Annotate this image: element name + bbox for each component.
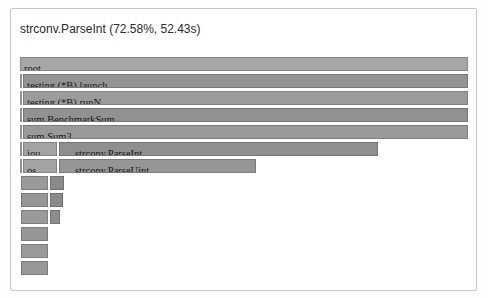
flame-frame-small[interactable] (21, 193, 48, 207)
frame-label: strconv.ParseUint (72, 165, 149, 173)
flame-frame-os-truncated[interactable]: os.… (23, 159, 57, 173)
flame-frame-root[interactable]: root (20, 57, 468, 71)
flame-frame-small[interactable] (50, 210, 60, 224)
flamegraph-page: strconv.ParseInt (72.58%, 52.43s) rootte… (0, 0, 488, 297)
flame-frame-sliver[interactable] (20, 159, 22, 173)
frame-label: os.… (24, 165, 49, 173)
flame-frame-testing-b-runn[interactable]: testing.(*B).runN (23, 91, 468, 105)
frame-label: testing.(*B).runN (24, 97, 101, 105)
flame-frame-strconv-parseint[interactable]: strconv.ParseInt (59, 142, 378, 156)
flame-frame-sliver[interactable] (20, 125, 22, 139)
flame-frame-sliver[interactable] (20, 108, 22, 122)
flame-frame-strconv-parseuint[interactable]: strconv.ParseUint (59, 159, 256, 173)
flame-frame-small[interactable] (21, 210, 48, 224)
flame-frame-small[interactable] (21, 261, 48, 275)
frame-label: strconv.ParseInt (72, 148, 142, 156)
flame-frame-small[interactable] (50, 193, 63, 207)
flame-frame-small[interactable] (50, 176, 64, 190)
flame-frame-small[interactable] (21, 244, 48, 258)
flame-frame-testing-b-launch[interactable]: testing.(*B).launch (23, 74, 468, 88)
frame-label: sum.BenchmarkSum (24, 114, 115, 122)
flame-frame-sliver[interactable] (20, 74, 22, 88)
flame-frame-iou-truncated[interactable]: iou… (23, 142, 57, 156)
frame-label: iou… (24, 148, 51, 156)
frame-label: sum.Sum3 (24, 131, 72, 139)
flame-frame-sum-sum3[interactable]: sum.Sum3 (23, 125, 468, 139)
flame-frame-sum-benchmarksum[interactable]: sum.BenchmarkSum (23, 108, 468, 122)
flamegraph-selection-title: strconv.ParseInt (72.58%, 52.43s) (20, 22, 201, 36)
flame-frame-sliver[interactable] (20, 142, 22, 156)
frame-label: root (21, 63, 41, 71)
frame-label: testing.(*B).launch (24, 80, 107, 88)
flame-frame-small[interactable] (21, 227, 48, 241)
flame-frame-small[interactable] (21, 176, 48, 190)
flamegraph: roottesting.(*B).launchtesting.(*B).runN… (0, 57, 488, 287)
flame-frame-sliver[interactable] (20, 91, 22, 105)
